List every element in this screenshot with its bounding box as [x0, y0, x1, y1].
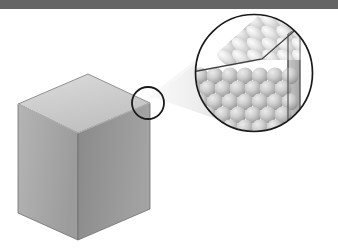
figure-root: Magnified view of crystalline atomic pac… — [0, 0, 338, 251]
bulk-solid-cube — [18, 74, 150, 240]
illustration-canvas — [0, 0, 338, 251]
magnified-lattice — [185, 10, 331, 136]
